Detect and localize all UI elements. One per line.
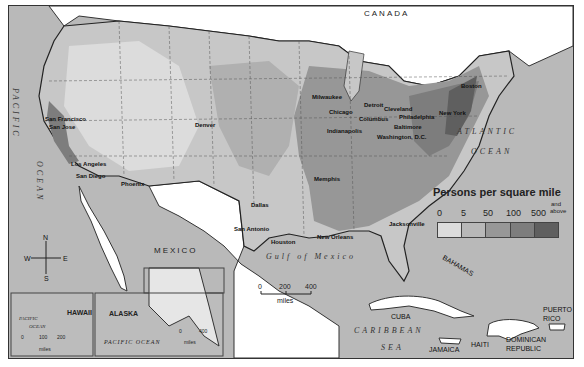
legend-swatch-50-100: [486, 223, 510, 237]
city-san-francisco: San Francisco: [45, 116, 86, 122]
compass-e: E: [63, 255, 68, 262]
legend-color-bar: [437, 222, 559, 238]
city-denver: Denver: [195, 122, 215, 128]
cuba-island: [369, 296, 474, 318]
label-caribbean-sea: SEA: [381, 344, 404, 352]
legend-tick-5: 5: [461, 208, 466, 218]
map-frame: CANADA MEXICO PACIFIC OCEAN ATLANTIC OCE…: [8, 5, 574, 359]
legend-tick-above: above: [550, 208, 566, 214]
label-pacific: PACIFIC: [11, 88, 19, 139]
scale-tick-0: 0: [258, 283, 262, 290]
baja-peninsula: [79, 186, 127, 291]
label-alaska: ALASKA: [109, 310, 138, 317]
scale-tick-200: 200: [279, 283, 291, 290]
hawaii-ocean: OCEAN: [29, 324, 45, 329]
compass-s: S: [44, 275, 49, 282]
label-haiti: HAITI: [471, 341, 489, 348]
legend-tick-and: and: [551, 201, 561, 207]
city-jacksonville: Jacksonville: [389, 221, 425, 227]
city-los-angeles: Los Angeles: [71, 161, 106, 167]
alaska-pacific-ocean: PACIFIC OCEAN: [104, 339, 160, 345]
label-atlantic-ocean: OCEAN: [471, 148, 512, 156]
hawaii-scale-100: 100: [39, 334, 47, 340]
alaska-scale-0: 0: [179, 328, 182, 334]
city-new-york: New York: [439, 110, 466, 116]
hawaii-scale-0: 0: [21, 334, 24, 340]
city-baltimore: Baltimore: [394, 124, 422, 130]
city-detroit: Detroit: [364, 102, 383, 108]
city-san-jose: San Jose: [49, 124, 75, 130]
city-cleveland: Cleveland: [384, 106, 412, 112]
alaska-scale-unit: miles: [184, 339, 196, 345]
label-canada: CANADA: [364, 10, 409, 18]
compass-n: N: [43, 234, 48, 241]
label-mexico: MEXICO: [154, 247, 198, 255]
city-san-antonio: San Antonio: [234, 226, 269, 232]
label-pacific-ocean: OCEAN: [35, 161, 43, 202]
puerto-rico-island: [549, 324, 565, 330]
legend-tick-0: 0: [437, 208, 442, 218]
legend-swatch-0-5: [438, 223, 462, 237]
label-jamaica: JAMAICA: [429, 346, 459, 353]
legend: Persons per square mile 0 5 50 100 500 a…: [433, 186, 571, 238]
jamaica-island: [439, 338, 461, 344]
hawaii-scale-200: 200: [57, 334, 65, 340]
city-milwaukee: Milwaukee: [312, 94, 342, 100]
legend-tick-100: 100: [506, 208, 521, 218]
legend-swatch-500-plus: [535, 223, 558, 237]
city-columbus: Columbus: [359, 116, 388, 122]
legend-tick-500: 500: [531, 208, 546, 218]
alaska-scale-400: 400: [199, 328, 207, 334]
scale-tick-400: 400: [305, 283, 317, 290]
city-phoenix: Phoenix: [121, 181, 144, 187]
label-hawaii: HAWAII: [67, 309, 92, 316]
label-cuba: CUBA: [391, 313, 410, 320]
city-san-diego: San Diego: [76, 173, 105, 179]
city-washington-dc: Washington, D.C.: [377, 134, 426, 140]
label-republic: REPUBLIC: [506, 345, 541, 352]
city-new-orleans: New Orleans: [317, 234, 353, 240]
hawaii-inset-box: [11, 293, 93, 356]
city-boston: Boston: [461, 83, 482, 89]
label-dominican: DOMINICAN: [506, 336, 546, 343]
city-chicago: Chicago: [329, 109, 353, 115]
compass-w: W: [24, 255, 31, 262]
label-rico: RICO: [543, 315, 561, 322]
city-memphis: Memphis: [314, 176, 340, 182]
legend-tick-50: 50: [483, 208, 493, 218]
hawaii-scale-unit: miles: [39, 346, 51, 352]
label-caribbean: CARIBBEAN: [354, 327, 424, 335]
hawaii-pacific: PACIFIC: [19, 316, 38, 321]
legend-swatch-5-50: [462, 223, 486, 237]
compass-rose: [31, 241, 61, 274]
legend-title: Persons per square mile: [433, 186, 571, 198]
legend-ticks: 0 5 50 100 500 and above: [433, 204, 571, 220]
label-puerto: PUERTO: [543, 306, 572, 313]
legend-swatch-100-500: [511, 223, 535, 237]
scale-unit: miles: [277, 297, 293, 304]
map-graphic: [9, 6, 573, 358]
city-houston: Houston: [271, 239, 295, 245]
city-philadelphia: Philadelphia: [399, 114, 434, 120]
city-dallas: Dallas: [251, 202, 269, 208]
city-indianapolis: Indianapolis: [327, 128, 362, 134]
label-atlantic: ATLANTIC: [457, 128, 517, 136]
label-gulf-of-mexico: Gulf of Mexico: [266, 253, 356, 261]
